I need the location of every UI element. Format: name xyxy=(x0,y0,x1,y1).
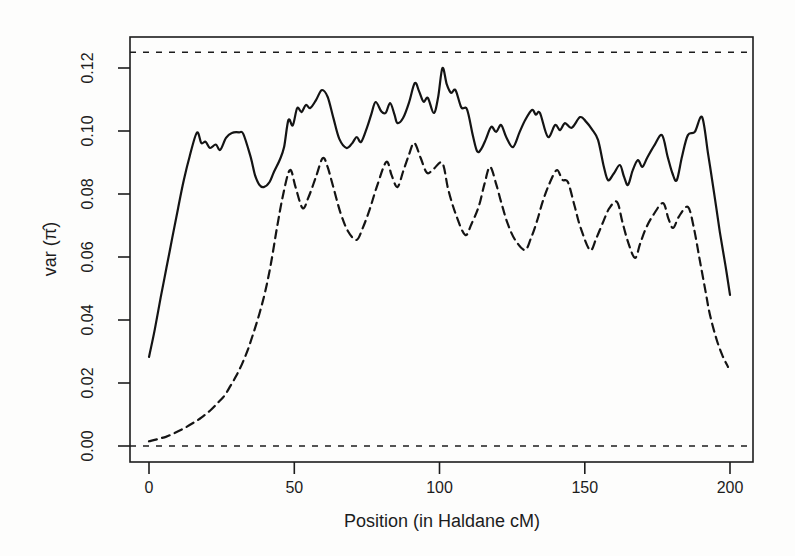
y-tick-label: 0.00 xyxy=(79,430,96,461)
x-tick-label: 200 xyxy=(717,479,744,496)
series-group xyxy=(149,68,730,442)
solid-curve xyxy=(149,68,730,357)
y-tick-label: 0.02 xyxy=(79,367,96,398)
x-tick-label: 50 xyxy=(285,479,303,496)
y-tick-label: 0.04 xyxy=(79,304,96,335)
x-axis-title: Position (in Haldane cM) xyxy=(344,511,540,531)
reference-lines xyxy=(130,52,753,446)
x-tick-label: 0 xyxy=(145,479,154,496)
x-tick-label: 150 xyxy=(571,479,598,496)
y-tick-label: 0.08 xyxy=(79,178,96,209)
figure: 050100150200 0.000.020.040.060.080.100.1… xyxy=(0,0,795,556)
x-tick-label: 100 xyxy=(426,479,453,496)
y-tick-label: 0.12 xyxy=(79,52,96,83)
y-tick-label: 0.06 xyxy=(79,241,96,272)
x-axis: 050100150200 xyxy=(145,462,744,496)
y-tick-label: 0.10 xyxy=(79,115,96,146)
y-axis-title: var (π̂) xyxy=(40,222,60,276)
chart-canvas: 050100150200 0.000.020.040.060.080.100.1… xyxy=(0,0,795,556)
dashed-curve xyxy=(149,143,728,441)
y-axis: 0.000.020.040.060.080.100.12 xyxy=(79,52,130,461)
